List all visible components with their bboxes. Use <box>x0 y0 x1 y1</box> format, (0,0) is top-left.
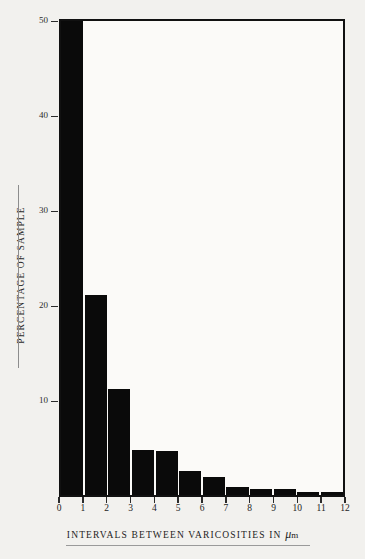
x-tick-label: 5 <box>169 503 187 513</box>
x-tick-label: 4 <box>145 503 163 513</box>
x-tick-label: 12 <box>336 503 354 513</box>
bar-7-8 <box>226 487 248 495</box>
y-tick-label: 40 <box>30 110 48 120</box>
x-tick-label: 10 <box>288 503 306 513</box>
y-axis-title: PERCENTAGE OF SAMPLE <box>10 150 32 400</box>
x-tick-label: 0 <box>50 503 68 513</box>
bar-2-3 <box>108 389 130 495</box>
x-axis-caption-text: INTERVALS BETWEEN VARICOSITIES IN <box>67 530 285 540</box>
y-tick-mark <box>51 401 58 402</box>
y-tick-mark <box>51 116 58 117</box>
bar-series <box>61 21 343 495</box>
plot-area <box>59 19 345 497</box>
bar-0-1 <box>61 21 83 495</box>
x-tick-label: 1 <box>74 503 92 513</box>
y-tick-label: 10 <box>30 395 48 405</box>
unit-m: m <box>291 530 298 540</box>
y-tick-label: 20 <box>30 300 48 310</box>
bar-4-5 <box>156 451 178 495</box>
x-tick-label: 7 <box>217 503 235 513</box>
y-tick-mark <box>51 306 58 307</box>
histogram-figure: PERCENTAGE OF SAMPLE 5040302010 01234567… <box>0 0 365 559</box>
y-tick-mark <box>51 211 58 212</box>
x-tick-label: 6 <box>193 503 211 513</box>
bar-1-2 <box>85 295 107 495</box>
y-tick-label: 30 <box>30 205 48 215</box>
bar-8-9 <box>250 489 272 495</box>
x-tick-label: 8 <box>241 503 259 513</box>
y-axis-title-rule <box>18 185 19 368</box>
y-tick-label: 50 <box>30 15 48 25</box>
y-tick-mark <box>51 21 58 22</box>
x-tick-label: 2 <box>98 503 116 513</box>
bar-11-12 <box>321 492 343 495</box>
x-tick-label: 11 <box>312 503 330 513</box>
bar-6-7 <box>203 477 225 495</box>
bar-5-6 <box>179 471 201 495</box>
x-tick-label: 3 <box>122 503 140 513</box>
bar-3-4 <box>132 450 154 495</box>
bar-9-10 <box>274 489 296 495</box>
x-tick-label: 9 <box>265 503 283 513</box>
x-axis-caption: INTERVALS BETWEEN VARICOSITIES IN μm <box>0 527 365 542</box>
x-axis-caption-rule <box>66 545 310 546</box>
bar-10-11 <box>297 492 319 495</box>
